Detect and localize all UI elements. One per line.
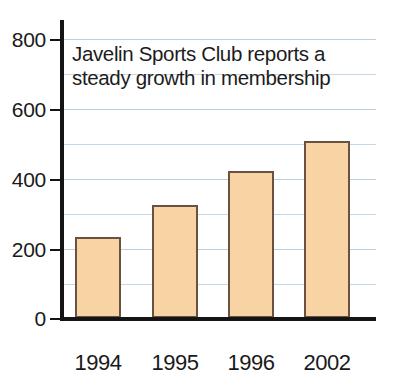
chart-title-line-2: steady growth in membership: [72, 66, 372, 90]
chart-title-line-1: Javelin Sports Club reports a: [72, 42, 372, 66]
bar-chart: 800 600 400 200 0 1994 1995 1996 2002 Ja…: [0, 0, 395, 391]
chart-title: Javelin Sports Club reports a steady gro…: [72, 42, 372, 90]
chart-title-group: Javelin Sports Club reports a steady gro…: [0, 0, 395, 391]
